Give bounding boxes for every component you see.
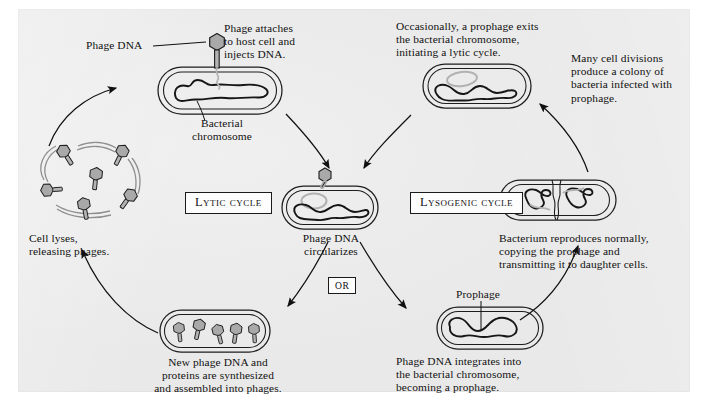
arrow-exit-to-circularize	[364, 115, 411, 168]
caption-bacterial-chromosome: Bacterial chromosome	[177, 117, 267, 143]
arrow-division-to-exit	[540, 104, 588, 172]
assembled-phages-cell	[160, 310, 270, 352]
figure-root: Phage DNA Phage attaches to host cell an…	[0, 0, 707, 410]
circularized-dna-cell	[282, 168, 378, 229]
caption-occasionally-prophage-exits: Occasionally, a prophage exits the bacte…	[396, 20, 538, 60]
or-label: OR	[328, 277, 356, 294]
prophage-exit-cell	[423, 64, 531, 108]
attached-phage	[210, 34, 225, 69]
arrow-assembly-to-lysis	[82, 250, 158, 333]
lytic-cycle-label: Lytic cycle	[185, 192, 272, 214]
caption-cell-lyses: Cell lyses, releasing phages.	[29, 232, 109, 258]
caption-prophage: Prophage	[456, 288, 500, 301]
caption-phage-dna: Phage DNA	[86, 39, 142, 52]
prophage-integrated-cell	[437, 301, 543, 349]
arrow-lysogenic-return	[366, 88, 404, 93]
caption-phage-attaches: Phage attaches to host cell and injects …	[224, 22, 295, 62]
caption-many-cell-divisions: Many cell divisions produce a colony of …	[571, 52, 672, 105]
lysogenic-cycle-label: Lysogenic cycle	[410, 192, 523, 214]
phage-tail-stub	[319, 168, 331, 187]
caption-bacterium-reproduces: Bacterium reproduces normally, copying t…	[499, 232, 649, 272]
arrow-lysis-to-attach	[49, 88, 116, 146]
caption-phage-dna-integrates: Phage DNA integrates into the bacterial …	[396, 355, 521, 395]
caption-phage-dna-circularizes: Phage DNA circularizes	[285, 232, 377, 258]
lysed-cell	[40, 142, 140, 220]
caption-new-phage-dna: New phage DNA and proteins are synthesiz…	[138, 356, 298, 396]
arrow-attach-to-circularize	[286, 114, 329, 168]
